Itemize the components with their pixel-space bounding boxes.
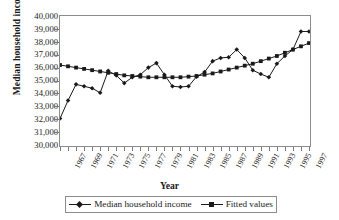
series-layer (60, 16, 310, 146)
data-point-marker (307, 41, 310, 45)
x-tick-mark (205, 147, 206, 151)
data-point-marker (114, 72, 118, 76)
x-tick-mark (164, 147, 165, 151)
data-point-marker (291, 48, 295, 52)
y-tick-label: 39,000 (24, 25, 58, 34)
x-tick-mark (253, 147, 254, 151)
y-tick-mark (55, 55, 59, 56)
y-tick-label: 37,000 (24, 50, 58, 59)
x-tick-mark (197, 147, 198, 151)
legend-item[interactable]: Fitted values (201, 200, 273, 209)
x-tick-mark (245, 147, 246, 151)
x-tick-mark (100, 147, 101, 151)
x-tick-mark (156, 147, 157, 151)
data-point-marker (98, 70, 102, 74)
x-tick-label: 1975 (138, 152, 153, 170)
x-tick-mark (180, 147, 181, 151)
x-tick-mark (309, 147, 310, 151)
x-tick-mark (277, 147, 278, 151)
y-tick-mark (55, 106, 59, 107)
y-axis-tick-labels: 40,00039,00038,00037,00036,00035,00034,0… (24, 10, 58, 152)
x-tick-label: 1977 (154, 152, 169, 170)
data-point-marker (138, 75, 142, 79)
y-tick-mark (55, 68, 59, 69)
data-point-marker (106, 71, 110, 75)
y-tick-label: 33,000 (24, 102, 58, 111)
data-point-marker (267, 75, 272, 80)
data-point-marker (90, 68, 94, 72)
x-tick-label: 1989 (250, 152, 265, 170)
y-tick-label: 35,000 (24, 76, 58, 85)
x-tick-mark (148, 147, 149, 151)
data-point-marker (307, 29, 310, 34)
data-point-marker (163, 75, 167, 79)
legend-label: Fitted values (226, 200, 273, 209)
x-tick-mark (132, 147, 133, 151)
data-point-marker (74, 66, 78, 70)
data-point-marker (130, 74, 134, 78)
x-tick-mark (285, 147, 286, 151)
data-point-marker (299, 29, 304, 34)
legend-item[interactable]: Median household income (69, 200, 191, 209)
legend-label: Median household income (94, 200, 191, 209)
data-point-marker (154, 75, 158, 79)
series-line (60, 31, 309, 118)
x-tick-mark (221, 147, 222, 151)
x-tick-label: 1969 (90, 152, 105, 170)
data-point-marker (218, 56, 223, 61)
data-point-marker (66, 98, 71, 103)
data-point-marker (243, 64, 247, 68)
data-point-marker (178, 85, 183, 90)
diamond-marker-icon (69, 200, 91, 209)
data-point-marker (90, 86, 95, 91)
data-point-marker (60, 63, 62, 67)
x-tick-label: 1987 (234, 152, 249, 170)
data-point-marker (267, 57, 271, 61)
x-tick-mark (172, 147, 173, 151)
x-tick-mark (189, 147, 190, 151)
data-point-marker (122, 73, 126, 77)
y-tick-label: 30,000 (24, 141, 58, 150)
y-tick-label: 38,000 (24, 38, 58, 47)
data-point-marker (235, 66, 239, 70)
data-point-marker (82, 67, 86, 71)
data-point-marker (195, 74, 199, 78)
x-tick-mark (124, 147, 125, 151)
x-tick-mark (301, 147, 302, 151)
data-point-marker (275, 54, 279, 58)
chart-legend: Median household incomeFitted values (65, 196, 277, 213)
data-point-marker (146, 75, 150, 79)
y-tick-label: 34,000 (24, 89, 58, 98)
data-point-marker (299, 44, 303, 48)
data-point-marker (171, 75, 175, 79)
data-point-marker (259, 59, 263, 63)
x-tick-mark (76, 147, 77, 151)
x-tick-mark (116, 147, 117, 151)
y-tick-mark (55, 132, 59, 133)
x-tick-label: 1993 (283, 152, 298, 170)
data-point-marker (283, 51, 287, 55)
x-tick-label: 1979 (170, 152, 185, 170)
x-tick-label: 1991 (266, 152, 281, 170)
y-tick-label: 40,000 (24, 12, 58, 21)
x-tick-mark (229, 147, 230, 151)
y-tick-label: 31,000 (24, 128, 58, 137)
y-tick-mark (55, 93, 59, 94)
x-tick-label: 1997 (315, 152, 330, 170)
data-point-marker (98, 90, 103, 95)
square-marker-icon (201, 200, 223, 209)
y-tick-label: 32,000 (24, 115, 58, 124)
plot-area (59, 15, 311, 147)
data-point-marker (187, 75, 191, 79)
x-tick-mark (261, 147, 262, 151)
y-tick-mark (55, 81, 59, 82)
x-tick-mark (92, 147, 93, 151)
x-tick-label: 1971 (106, 152, 121, 170)
data-point-marker (203, 73, 207, 77)
x-tick-mark (68, 147, 69, 151)
x-tick-mark (269, 147, 270, 151)
median-household-income-chart: Median household income 40,00039,00038,0… (0, 0, 339, 220)
data-point-marker (227, 68, 231, 72)
data-point-marker (211, 72, 215, 76)
x-axis-title: Year (0, 180, 339, 191)
